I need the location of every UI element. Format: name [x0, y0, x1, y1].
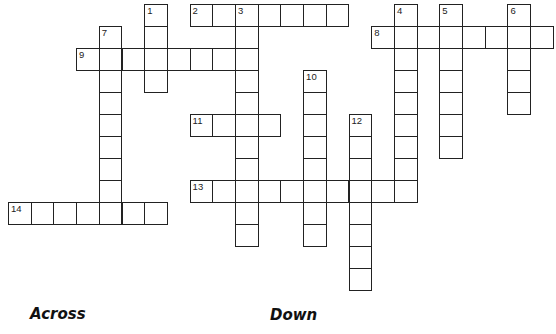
- crossword-cell[interactable]: [394, 70, 418, 93]
- crossword-cell[interactable]: [303, 202, 327, 225]
- crossword-cell[interactable]: [235, 202, 259, 225]
- crossword-cell[interactable]: 11: [190, 114, 214, 137]
- crossword-cell[interactable]: [122, 48, 146, 71]
- crossword-cell[interactable]: 13: [190, 180, 214, 203]
- crossword-cell[interactable]: 7: [99, 26, 123, 49]
- clue-number: 14: [11, 203, 22, 214]
- clue-number: 4: [397, 5, 402, 16]
- clue-number: 6: [510, 5, 515, 16]
- crossword-cell[interactable]: [235, 158, 259, 181]
- crossword-cell[interactable]: [280, 180, 304, 203]
- crossword-cell[interactable]: [53, 202, 77, 225]
- crossword-cell[interactable]: [99, 48, 123, 71]
- crossword-cell[interactable]: [439, 136, 463, 159]
- crossword-cell[interactable]: [99, 114, 123, 137]
- crossword-cell[interactable]: 6: [507, 4, 531, 27]
- crossword-cell[interactable]: 10: [303, 70, 327, 93]
- clue-number: 13: [193, 181, 204, 192]
- crossword-cell[interactable]: [144, 70, 168, 93]
- crossword-cell[interactable]: [507, 92, 531, 115]
- crossword-cell[interactable]: [507, 48, 531, 71]
- crossword-cell[interactable]: [394, 114, 418, 137]
- crossword-cell[interactable]: [99, 92, 123, 115]
- crossword-cell[interactable]: [439, 114, 463, 137]
- crossword-cell[interactable]: [303, 136, 327, 159]
- crossword-cell[interactable]: 3: [235, 4, 259, 27]
- crossword-cell[interactable]: [326, 180, 350, 203]
- crossword-cell[interactable]: 5: [439, 4, 463, 27]
- crossword-cell[interactable]: [303, 92, 327, 115]
- crossword-cell[interactable]: 1: [144, 4, 168, 27]
- down-heading: Down: [270, 306, 317, 324]
- crossword-cell[interactable]: [235, 26, 259, 49]
- crossword-cell[interactable]: [303, 4, 327, 27]
- crossword-cell[interactable]: [99, 202, 123, 225]
- crossword-cell[interactable]: [99, 136, 123, 159]
- crossword-cell[interactable]: [144, 48, 168, 71]
- crossword-cell[interactable]: [190, 48, 214, 71]
- crossword-cell[interactable]: [144, 202, 168, 225]
- crossword-cell[interactable]: [462, 26, 486, 49]
- crossword-cell[interactable]: [280, 4, 304, 27]
- crossword-cell[interactable]: [235, 92, 259, 115]
- crossword-cell[interactable]: [235, 48, 259, 71]
- crossword-cell[interactable]: [349, 202, 373, 225]
- crossword-cell[interactable]: [258, 114, 282, 137]
- crossword-cell[interactable]: [530, 26, 554, 49]
- crossword-cell[interactable]: [507, 70, 531, 93]
- crossword-cell[interactable]: [439, 48, 463, 71]
- crossword-cell[interactable]: [507, 26, 531, 49]
- crossword-cell[interactable]: [394, 136, 418, 159]
- crossword-cell[interactable]: [235, 180, 259, 203]
- crossword-cell[interactable]: [349, 180, 373, 203]
- crossword-cell[interactable]: [235, 114, 259, 137]
- crossword-cell[interactable]: [122, 202, 146, 225]
- crossword-cell[interactable]: 4: [394, 4, 418, 27]
- crossword-cell[interactable]: [439, 26, 463, 49]
- crossword-cell[interactable]: 14: [8, 202, 32, 225]
- crossword-cell[interactable]: [349, 268, 373, 291]
- crossword-cell[interactable]: 12: [349, 114, 373, 137]
- crossword-cell[interactable]: [439, 92, 463, 115]
- crossword-cell[interactable]: [99, 70, 123, 93]
- clue-number: 2: [193, 5, 198, 16]
- crossword-cell[interactable]: [235, 224, 259, 247]
- crossword-cell[interactable]: [394, 180, 418, 203]
- crossword-cell[interactable]: [31, 202, 55, 225]
- crossword-cell[interactable]: [258, 180, 282, 203]
- clue-number: 7: [102, 27, 107, 38]
- crossword-cell[interactable]: [99, 158, 123, 181]
- crossword-cell[interactable]: [349, 136, 373, 159]
- crossword-cell[interactable]: [212, 4, 236, 27]
- crossword-cell[interactable]: [167, 48, 191, 71]
- crossword-cell[interactable]: [394, 92, 418, 115]
- crossword-cell[interactable]: [303, 180, 327, 203]
- crossword-cell[interactable]: [485, 26, 509, 49]
- crossword-cell[interactable]: [212, 48, 236, 71]
- crossword-cell[interactable]: [144, 26, 168, 49]
- crossword-cell[interactable]: 9: [76, 48, 100, 71]
- crossword-cell[interactable]: [212, 114, 236, 137]
- crossword-cell[interactable]: [258, 4, 282, 27]
- crossword-cell[interactable]: [235, 70, 259, 93]
- crossword-cell[interactable]: [394, 158, 418, 181]
- crossword-cell[interactable]: [303, 114, 327, 137]
- crossword-cell[interactable]: 2: [190, 4, 214, 27]
- crossword-cell[interactable]: [76, 202, 100, 225]
- crossword-cell[interactable]: [235, 136, 259, 159]
- crossword-cell[interactable]: [394, 48, 418, 71]
- crossword-cell[interactable]: [349, 158, 373, 181]
- crossword-cell[interactable]: [212, 180, 236, 203]
- crossword-cell[interactable]: [303, 158, 327, 181]
- crossword-cell[interactable]: [349, 224, 373, 247]
- crossword-cell[interactable]: [417, 26, 441, 49]
- crossword-cell[interactable]: [371, 180, 395, 203]
- crossword-cell[interactable]: [303, 224, 327, 247]
- crossword-cell[interactable]: [326, 4, 350, 27]
- crossword-cell[interactable]: [99, 180, 123, 203]
- crossword-cell[interactable]: [439, 70, 463, 93]
- clue-number: 11: [193, 115, 203, 126]
- crossword-cell[interactable]: [349, 246, 373, 269]
- crossword-cell[interactable]: [394, 26, 418, 49]
- crossword-cell[interactable]: 8: [371, 26, 395, 49]
